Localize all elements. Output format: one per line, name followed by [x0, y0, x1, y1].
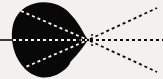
focal-dot-5 [79, 39, 81, 41]
focal-dot-0 [83, 35, 85, 37]
focal-dot-3 [91, 34, 93, 36]
diagram-canvas [0, 0, 163, 79]
beam-focus-diagram [0, 0, 163, 79]
focal-dot-4 [91, 44, 93, 46]
focal-dot-2 [87, 39, 90, 42]
focal-dot-1 [83, 43, 85, 45]
